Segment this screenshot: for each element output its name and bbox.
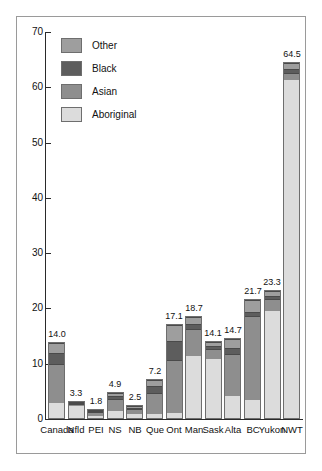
y-axis-tick-label: 10 (21, 359, 43, 369)
bar-segment-asian (206, 349, 221, 359)
bar-segment-other (245, 300, 260, 312)
bar-segment-aboriginal (225, 396, 240, 418)
bar-segment-aboriginal (127, 414, 142, 419)
bar-sask[interactable] (205, 341, 222, 419)
y-axis-tick-label: 0 (21, 414, 43, 424)
bar-yukon[interactable] (264, 290, 281, 419)
bar-segment-asian (265, 299, 280, 311)
bar-segment-other (167, 325, 182, 341)
bar-segment-other (225, 339, 240, 348)
legend-item-aboriginal[interactable]: Aboriginal (61, 103, 171, 126)
bar-segment-aboriginal (186, 356, 201, 418)
y-axis-tick-label-wrap: 0 (16, 414, 43, 424)
y-axis-tick-mark (46, 308, 51, 309)
bar-value-label: 7.2 (138, 367, 172, 376)
bar-value-label: 23.3 (255, 278, 289, 287)
y-axis-tick-label-wrap: 30 (16, 248, 43, 258)
bar-nwt[interactable] (283, 62, 300, 419)
bar-segment-asian (284, 73, 299, 80)
legend-item-asian[interactable]: Asian (61, 80, 171, 103)
bar-value-label: 18.7 (177, 304, 211, 313)
legend-label-other: Other (92, 41, 117, 51)
bar-segment-black (49, 353, 64, 364)
legend-swatch-other (61, 38, 82, 53)
y-axis-tick-label: 20 (21, 303, 43, 313)
bar-segment-aboriginal (265, 311, 280, 418)
y-axis-tick-label-wrap: 50 (16, 138, 43, 148)
y-axis-tick-label: 30 (21, 248, 43, 258)
bar-segment-asian (225, 354, 240, 397)
bar-value-label: 64.5 (275, 50, 309, 59)
legend-swatch-black (61, 61, 82, 76)
y-axis-tick-mark (46, 32, 51, 33)
y-axis-tick-label: 70 (21, 27, 43, 37)
bar-value-label: 17.1 (157, 312, 191, 321)
bar-segment-aboriginal (167, 413, 182, 418)
y-axis-tick-label-wrap: 40 (16, 193, 43, 203)
y-axis-tick-mark (46, 143, 51, 144)
legend-swatch-aboriginal (61, 107, 82, 122)
legend-label-black: Black (92, 64, 116, 74)
bar-segment-black (147, 386, 162, 393)
bar-segment-black (167, 341, 182, 359)
legend-swatch-asian (61, 84, 82, 99)
bar-value-label: 14.0 (40, 330, 74, 339)
legend-label-aboriginal: Aboriginal (92, 110, 136, 120)
bar-value-label: 14.7 (216, 326, 250, 335)
bar-value-label: 1.8 (79, 397, 113, 406)
y-axis-tick-label-wrap: 70 (16, 27, 43, 37)
bar-segment-aboriginal (206, 359, 221, 418)
bar-segment-aboriginal (284, 80, 299, 418)
y-axis-tick-mark (46, 87, 51, 88)
y-axis-tick-label-wrap: 10 (16, 359, 43, 369)
x-axis-label-nwt: NWT (272, 424, 312, 435)
y-axis-tick-label: 40 (21, 193, 43, 203)
bar-segment-other (49, 343, 64, 354)
y-axis-tick-label-wrap: 20 (16, 303, 43, 313)
y-axis-tick-label: 60 (21, 82, 43, 92)
bar-segment-aboriginal (49, 403, 64, 418)
y-axis-tick-mark (46, 198, 51, 199)
bar-value-label: 21.7 (236, 287, 270, 296)
y-axis-tick-mark (46, 253, 51, 254)
bar-pei[interactable] (87, 409, 104, 419)
y-axis-tick-label: 50 (21, 138, 43, 148)
y-axis-tick-mark (46, 419, 51, 420)
bar-segment-aboriginal (88, 416, 103, 418)
legend-item-other[interactable]: Other (61, 34, 171, 57)
y-axis-tick-label-wrap: 60 (16, 82, 43, 92)
bar-bc[interactable] (244, 299, 261, 419)
bar-alta[interactable] (224, 338, 241, 419)
bar-value-label: 4.9 (98, 380, 132, 389)
x-axis-line (45, 419, 303, 420)
bar-segment-aboriginal (245, 400, 260, 418)
bar-value-label: 2.5 (118, 393, 152, 402)
chart-legend: OtherBlackAsianAboriginal (61, 34, 171, 126)
chart-figure: 010203040506070 14.03.31.84.92.57.217.11… (0, 0, 322, 471)
bar-nb[interactable] (126, 405, 143, 419)
legend-item-black[interactable]: Black (61, 57, 171, 80)
plot-area: 010203040506070 14.03.31.84.92.57.217.11… (0, 0, 322, 471)
y-axis-line (45, 32, 46, 420)
legend-label-asian: Asian (92, 87, 117, 97)
bar-segment-aboriginal (108, 411, 123, 418)
bar-segment-aboriginal (69, 406, 84, 419)
bar-segment-aboriginal (147, 414, 162, 418)
bar-canada[interactable] (48, 342, 65, 419)
